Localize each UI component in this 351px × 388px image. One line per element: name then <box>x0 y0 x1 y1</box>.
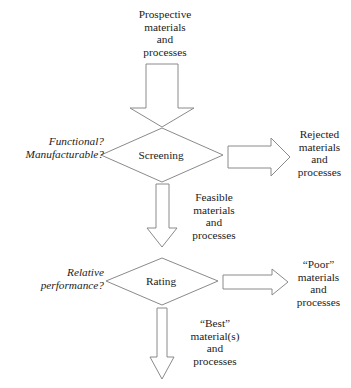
arrow-screening-to-rejected <box>228 138 290 176</box>
label-poor-output: “Poor” materials and processes <box>286 258 351 308</box>
label-rating-node: Rating <box>126 275 196 288</box>
arrow-screening-to-rating <box>147 184 177 247</box>
arrow-rating-to-best <box>150 308 174 379</box>
label-screening-criteria: Functional? Manufacturable? <box>4 135 104 160</box>
label-rating-criteria: Relative performance? <box>14 266 104 291</box>
label-screening-node: Screening <box>126 149 196 162</box>
arrow-rating-to-poor <box>223 269 288 295</box>
label-feasible-output: Feasible materials and processes <box>178 191 250 241</box>
label-prospective-input: Prospective materials and processes <box>108 8 222 58</box>
arrow-input-to-screening <box>130 64 194 127</box>
label-rejected-output: Rejected materials and processes <box>288 128 351 178</box>
label-best-output: “Best” material(s) and processes <box>178 317 252 367</box>
flowchart-canvas: Prospective materials and processes Scre… <box>0 0 351 388</box>
